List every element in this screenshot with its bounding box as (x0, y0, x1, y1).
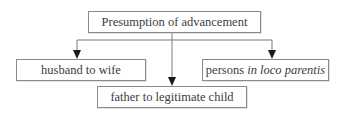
arrow-down-icon (168, 77, 176, 86)
child-node-persons-in-loco-parentis: persons in loco parentis (202, 59, 329, 81)
child-node-label: husband to wife (41, 63, 121, 78)
child-node-father-to-legitimate-child: father to legitimate child (97, 86, 247, 108)
child-node-husband-to-wife: husband to wife (16, 59, 146, 81)
child-node-label-italic: in loco parentis (247, 63, 325, 78)
arrow-down-icon (73, 50, 81, 59)
root-node-label: Presumption of advancement (102, 15, 248, 30)
root-node-presumption-of-advancement: Presumption of advancement (88, 11, 261, 33)
arrow-down-icon (268, 50, 276, 59)
child-node-label: father to legitimate child (110, 90, 233, 105)
child-node-label-prefix: persons (206, 63, 247, 78)
